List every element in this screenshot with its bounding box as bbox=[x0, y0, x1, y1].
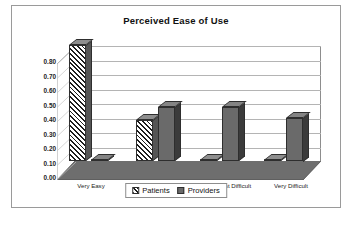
y-tick-label: 0.00 bbox=[26, 174, 56, 181]
chart-legend: Patients Providers bbox=[125, 183, 227, 198]
y-tick-label: 0.20 bbox=[26, 145, 56, 152]
bar-providers-somewhat-difficult[interactable] bbox=[222, 107, 239, 161]
y-tick-label: 0.60 bbox=[26, 87, 56, 94]
bar-side bbox=[86, 40, 92, 161]
y-tick-label: 0.80 bbox=[26, 58, 56, 65]
bar-top bbox=[264, 154, 289, 160]
bar-side bbox=[303, 113, 309, 161]
chart-frame: Perceived Ease of Use bbox=[11, 5, 341, 208]
legend-item-providers[interactable]: Providers bbox=[178, 186, 220, 195]
plot-area: 0.80 0.70 0.60 0.50 0.40 0.30 0.20 0.10 … bbox=[12, 6, 342, 209]
bar-patients-very-difficult[interactable] bbox=[264, 160, 281, 162]
bar-face bbox=[69, 45, 86, 161]
legend-item-patients[interactable]: Patients bbox=[132, 186, 169, 195]
bar-face bbox=[158, 107, 175, 161]
y-tick-label: 0.50 bbox=[26, 102, 56, 109]
bar-patients-very-easy[interactable] bbox=[69, 45, 86, 161]
bar-side bbox=[175, 103, 181, 161]
legend-swatch-providers-icon bbox=[178, 187, 185, 194]
bar-patients-somewhat-difficult[interactable] bbox=[200, 160, 217, 162]
y-tick-label: 0.10 bbox=[26, 160, 56, 167]
bar-group-very-easy bbox=[69, 41, 113, 161]
bar-patients-somewhat-easy[interactable] bbox=[136, 120, 153, 161]
plot-floor bbox=[57, 161, 321, 180]
bar-providers-somewhat-easy[interactable] bbox=[158, 107, 175, 161]
x-tick-label-very-easy: Very Easy bbox=[56, 182, 126, 189]
y-tick-label: 0.40 bbox=[26, 116, 56, 123]
bar-providers-very-difficult[interactable] bbox=[286, 118, 303, 162]
bar-face bbox=[286, 118, 303, 162]
y-tick-label: 0.30 bbox=[26, 131, 56, 138]
bar-top bbox=[91, 154, 116, 160]
bar-face bbox=[136, 120, 153, 161]
legend-swatch-patients-icon bbox=[132, 187, 139, 194]
bar-providers-very-easy[interactable] bbox=[91, 160, 108, 162]
y-tick-label: 0.70 bbox=[26, 73, 56, 80]
bar-side bbox=[239, 103, 245, 161]
x-axis-line bbox=[75, 161, 321, 162]
bar-top bbox=[200, 154, 225, 160]
bar-face bbox=[222, 107, 239, 161]
bar-group-somewhat-easy bbox=[136, 41, 180, 161]
bar-group-very-difficult bbox=[264, 41, 308, 161]
x-tick-label-very-difficult: Very Difficult bbox=[253, 182, 329, 189]
y-axis-labels: 0.80 0.70 0.60 0.50 0.40 0.30 0.20 0.10 … bbox=[26, 6, 56, 209]
bar-group-somewhat-difficult bbox=[200, 41, 244, 161]
legend-label-patients: Patients bbox=[142, 186, 169, 195]
legend-label-providers: Providers bbox=[188, 186, 220, 195]
